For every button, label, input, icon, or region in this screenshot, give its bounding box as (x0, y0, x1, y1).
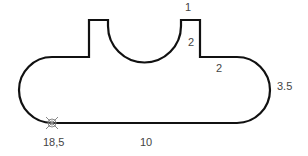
start-point-marker-icon (46, 117, 58, 129)
label-tab-height: 2 (188, 36, 194, 48)
label-start-point: 18,5 (43, 136, 64, 148)
label-bottom-length: 10 (140, 136, 152, 148)
profile-diagram: 1 2 2 3.5 18,5 10 (0, 0, 308, 156)
label-top-tab-width: 1 (185, 1, 191, 13)
label-end-radius: 3.5 (277, 80, 292, 92)
label-step-length: 2 (216, 62, 222, 74)
profile-outline (19, 20, 270, 123)
